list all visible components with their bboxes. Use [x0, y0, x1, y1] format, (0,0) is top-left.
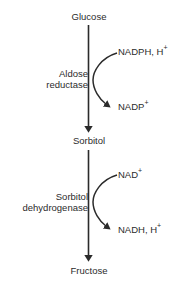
enzyme-line-2: reductase	[46, 79, 88, 90]
metabolite-label-glucose: Glucose	[72, 11, 107, 22]
enzyme-label-aldose-reductase: Aldose reductase	[46, 68, 88, 90]
enzyme-line-2: dehydrogenase	[23, 202, 89, 213]
superscript-plus: +	[144, 99, 148, 106]
enzyme-label-sorbitol-dehydrogenase: Sorbitol dehydrogenase	[23, 191, 89, 213]
enzyme-line-1: Sorbitol	[23, 191, 89, 202]
cofactor-label-nadh: NADH, H+	[118, 224, 161, 235]
curved-arrow-nad-to-nadh	[93, 175, 117, 227]
enzyme-line-1: Aldose	[46, 68, 88, 79]
pathway-diagram: Glucose Sorbitol Fructose Aldose reducta…	[0, 0, 182, 285]
metabolite-label-fructose: Fructose	[71, 265, 108, 276]
metabolite-label-sorbitol: Sorbitol	[73, 135, 105, 146]
cofactor-label-nadph: NADPH, H+	[118, 46, 168, 57]
cofactor-base: NADPH, H	[118, 46, 163, 57]
superscript-plus: +	[138, 167, 142, 174]
cofactor-base: NADH, H	[118, 224, 157, 235]
cofactor-base: NAD	[118, 169, 138, 180]
cofactor-label-nadp: NADP+	[118, 101, 149, 112]
superscript-plus: +	[163, 44, 167, 51]
superscript-plus: +	[157, 222, 161, 229]
curved-arrow-nadph-to-nadp	[93, 53, 117, 105]
cofactor-label-nad: NAD+	[118, 169, 142, 180]
cofactor-base: NADP	[118, 101, 144, 112]
